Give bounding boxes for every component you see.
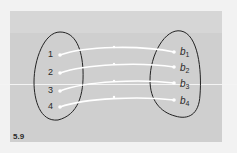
arrow-2-to-b2 (60, 64, 174, 73)
arrow-1-to-b1 (60, 47, 174, 55)
domain-label-1: 1 (48, 50, 53, 59)
codomain-label-b3: b3 (180, 79, 189, 90)
codomain-label-b4: b4 (180, 96, 189, 107)
dot-b1 (172, 50, 176, 54)
dot-2 (58, 71, 62, 75)
codomain-label-b1: b1 (180, 47, 189, 58)
midpoint-1 (113, 46, 115, 48)
dot-4 (58, 105, 62, 109)
codomain-set-outline (150, 31, 200, 118)
dot-b3 (172, 81, 176, 85)
dot-3 (58, 89, 62, 93)
dot-1 (58, 53, 62, 57)
arrow-3-to-b3 (60, 81, 174, 91)
figure-number: 5.9 (13, 132, 24, 141)
midpoint-4 (113, 96, 115, 98)
dot-b2 (172, 65, 176, 69)
mapping-diagram (0, 0, 237, 153)
domain-label-3: 3 (48, 86, 53, 95)
domain-label-4: 4 (48, 102, 53, 111)
midpoint-3 (113, 80, 115, 82)
domain-label-2: 2 (48, 68, 53, 77)
dot-b4 (172, 98, 176, 102)
codomain-label-b2: b2 (180, 63, 189, 74)
midpoint-2 (113, 63, 115, 65)
